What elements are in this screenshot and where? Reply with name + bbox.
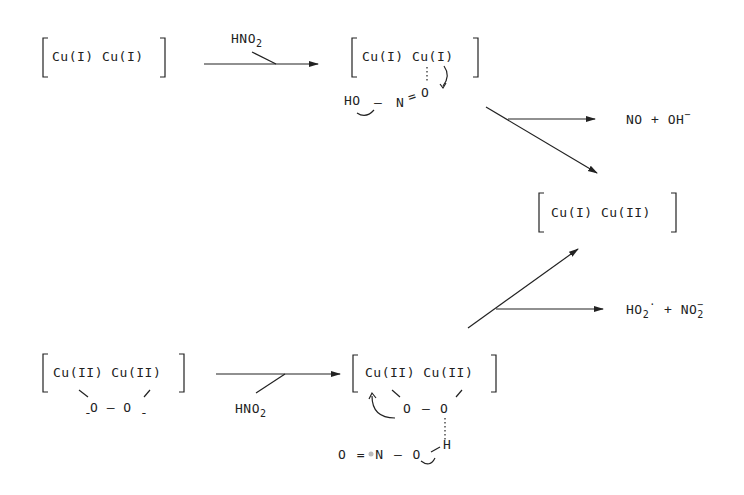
peroxo-dash: –	[422, 402, 430, 415]
product-no-oh: NO + OH−	[626, 113, 691, 126]
curved-arrow-ho	[357, 110, 374, 115]
species-cu1-cu1: Cu(I) Cu(I)	[52, 50, 144, 63]
reagent-tick-top	[252, 52, 276, 64]
reagent-hno2-top: HNO2	[231, 32, 263, 45]
oxygen-label: O	[421, 86, 429, 99]
curved-arrow-cu-to-o	[443, 66, 447, 86]
reagent-tick-bottom	[256, 374, 285, 393]
bond-dash: –	[374, 96, 382, 109]
hydrogen-label: H	[443, 438, 451, 451]
hydroxyl-label: HO	[344, 94, 361, 107]
species-cu2-cu2-intermediate: Cu(II) Cu(II)	[365, 366, 473, 379]
product-ho2-no2: HO2· + NO2−	[626, 303, 703, 316]
nitrite-label: O = N – O	[338, 448, 421, 461]
species-cu1-cu1-intermediate: Cu(I) Cu(I)	[362, 50, 454, 63]
peroxo-bridge: O – O	[90, 401, 132, 414]
nitrogen-label: N	[396, 96, 404, 109]
species-cu1-cu2: Cu(I) Cu(II)	[551, 206, 651, 219]
minus-right: -	[140, 406, 148, 419]
arrow-to-cu1-cu2	[486, 107, 597, 173]
arrow-up-to-cu1-cu2	[468, 249, 578, 328]
reagent-hno2-bottom: HNO2	[235, 402, 267, 415]
reaction-scheme-lines	[0, 0, 744, 495]
minus-left: -	[84, 406, 92, 419]
curved-arrow-o-to-cu	[372, 396, 395, 418]
peroxo-o1: O	[403, 402, 411, 415]
peroxo-o2: O	[440, 402, 448, 415]
species-cu2-cu2: Cu(II) Cu(II)	[53, 366, 161, 379]
